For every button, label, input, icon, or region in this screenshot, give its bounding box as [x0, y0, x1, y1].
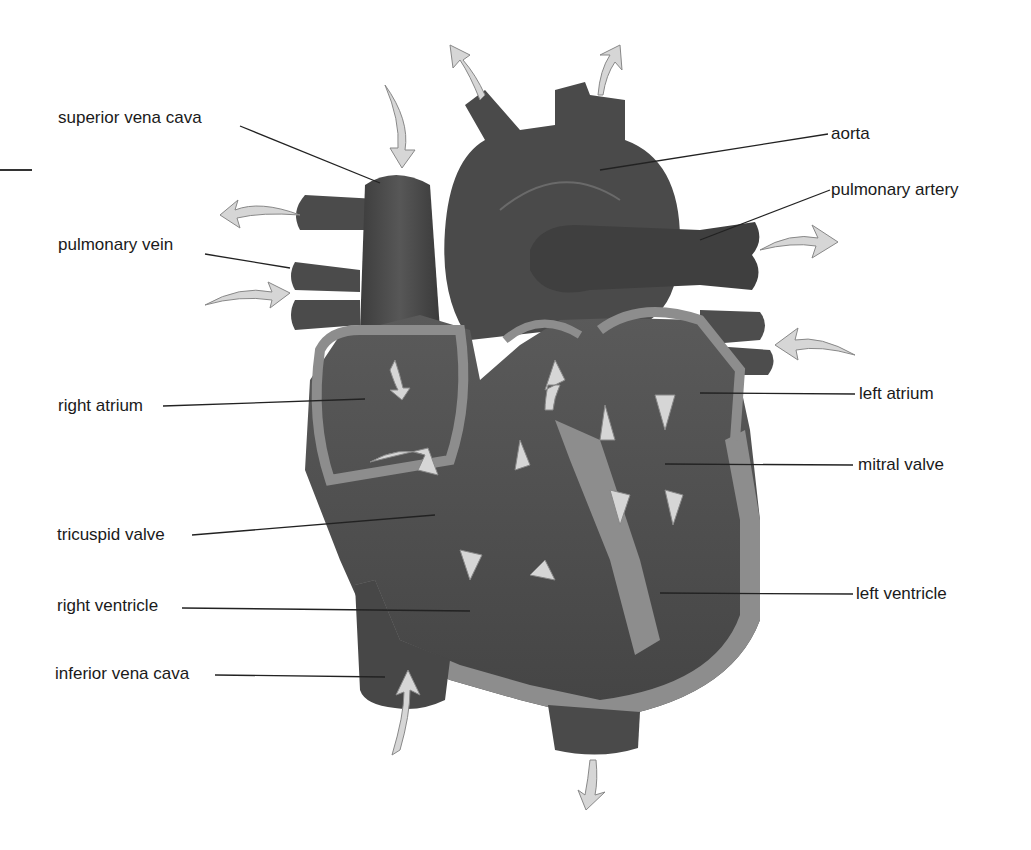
label-mitral-valve: mitral valve [858, 455, 944, 475]
label-right-atrium: right atrium [58, 396, 143, 416]
label-tricuspid-valve: tricuspid valve [57, 525, 165, 545]
label-inferior-vena-cava: inferior vena cava [55, 664, 189, 684]
superior-vena-cava-shape [360, 175, 440, 330]
descending-aorta-shape [548, 705, 640, 755]
label-pulmonary-artery: pulmonary artery [831, 180, 959, 200]
pulmonary-artery-shape [530, 222, 759, 293]
aorta-shape [444, 82, 680, 340]
label-aorta: aorta [831, 124, 870, 144]
label-left-ventricle: left ventricle [856, 584, 947, 604]
label-left-atrium: left atrium [859, 384, 934, 404]
label-superior-vena-cava: superior vena cava [58, 108, 202, 128]
label-right-ventricle: right ventricle [57, 596, 158, 616]
label-pulmonary-vein: pulmonary vein [58, 235, 173, 255]
